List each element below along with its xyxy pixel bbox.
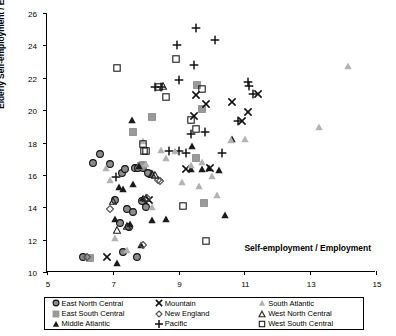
x-tick-label: 15 (373, 280, 382, 289)
data-point (125, 220, 134, 229)
x-tick-mark: 11 (244, 271, 245, 275)
data-point (137, 241, 146, 250)
data-point (139, 161, 148, 170)
data-point (158, 81, 167, 90)
data-point (211, 35, 220, 44)
x-tick-mark: 13 (310, 271, 311, 275)
data-point (191, 23, 200, 32)
data-point (162, 153, 171, 162)
data-point (139, 163, 148, 172)
data-point (116, 219, 125, 228)
data-point (213, 191, 222, 200)
data-point (198, 157, 207, 166)
data-point (248, 89, 257, 98)
data-point (86, 254, 95, 263)
legend-item-label: West North Central (268, 309, 332, 318)
triangle-open-icon (258, 309, 267, 318)
data-point (153, 175, 162, 184)
x-tick-label: 13 (307, 280, 316, 289)
data-point (178, 201, 187, 210)
legend-item[interactable]: West South Central (258, 319, 361, 329)
data-point (101, 163, 110, 172)
data-point (133, 252, 142, 261)
plus-black-icon (154, 319, 163, 328)
legend-item[interactable]: East North Central (51, 298, 154, 308)
data-point (188, 141, 197, 150)
x-black-icon (154, 299, 163, 308)
data-point (144, 195, 153, 204)
data-point (134, 163, 143, 172)
legend-item[interactable]: Middle Atlantic (51, 319, 154, 329)
scatter-points-layer (47, 13, 375, 271)
data-point (142, 203, 151, 212)
data-point (118, 169, 127, 178)
data-point (157, 145, 166, 154)
data-point (155, 177, 164, 186)
data-point (143, 169, 152, 178)
data-point (119, 185, 128, 194)
data-point (147, 216, 156, 225)
x-tick-mark: 7 (113, 271, 114, 275)
diamond-open-icon (154, 309, 163, 318)
legend-item[interactable]: Pacific (154, 319, 257, 329)
data-point (181, 149, 190, 158)
data-point (109, 196, 118, 205)
plot-area: 101214161820222426 579111315 Self-employ… (46, 13, 375, 272)
data-point (135, 161, 144, 170)
data-point (106, 204, 115, 213)
legend-item-label: East South Central (62, 309, 125, 318)
data-point (237, 117, 246, 126)
data-point (112, 64, 121, 73)
x-tick-label: 11 (241, 280, 249, 289)
legend-item-label: West South Central (268, 319, 333, 328)
y-tick-label: 18 (28, 139, 37, 148)
y-tick-label: 14 (28, 204, 37, 213)
data-point (201, 100, 210, 109)
data-point (137, 161, 146, 170)
data-point (194, 182, 203, 191)
x-tick-mark: 5 (47, 271, 48, 275)
data-point (200, 127, 209, 136)
circle-gray-filled-icon (51, 299, 60, 308)
legend-item-label: Mountain (165, 299, 196, 308)
x-tick-label: 9 (177, 280, 181, 289)
x-tick-label: 5 (46, 280, 50, 289)
data-point (129, 127, 138, 136)
data-point (187, 129, 196, 138)
data-point (112, 259, 121, 268)
data-point (150, 170, 159, 179)
x-tick-mark: 9 (179, 271, 180, 275)
data-point (162, 93, 171, 102)
data-point (218, 149, 227, 158)
y-axis-title: Elderly Self-employment / Elderly Employ… (0, 0, 6, 142)
data-point (89, 158, 98, 167)
legend-item-label: East North Central (62, 299, 124, 308)
data-point (187, 165, 196, 174)
data-point (244, 107, 253, 116)
data-point (177, 178, 186, 187)
legend-item[interactable]: East South Central (51, 308, 154, 318)
data-point (142, 194, 151, 203)
legend-item[interactable]: Mountain (154, 298, 257, 308)
x-axis-title: Self-employment / Employment (244, 243, 371, 253)
legend-item-label: New England (165, 309, 210, 318)
data-point (111, 215, 120, 224)
data-point (145, 170, 154, 179)
data-point (122, 246, 131, 255)
legend-item-label: Pacific (165, 319, 187, 328)
legend-item[interactable]: South Atlantic (258, 298, 361, 308)
data-point (208, 171, 217, 180)
data-point (233, 117, 242, 126)
chart-root: 101214161820222426 579111315 Self-employ… (0, 0, 396, 336)
data-point (139, 241, 148, 250)
data-point (79, 252, 88, 261)
triangle-gray-filled-icon (258, 299, 267, 308)
legend-item[interactable]: West North Central (258, 308, 361, 318)
x-tick-mark: 15 (376, 271, 377, 275)
legend-item[interactable]: New England (154, 308, 257, 318)
data-point (106, 159, 115, 168)
data-point (102, 253, 111, 262)
data-point (129, 208, 138, 217)
square-gray-filled-icon (51, 309, 60, 318)
data-point (127, 115, 136, 124)
